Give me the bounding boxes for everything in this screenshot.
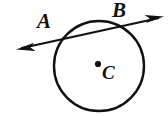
diagram-canvas: [0, 0, 168, 116]
geometry-figure: A B C: [0, 0, 168, 116]
point-label-b: B: [112, 0, 126, 21]
arrowhead-right-icon: [145, 15, 165, 23]
point-label-a: A: [37, 11, 51, 32]
center-point-dot: [95, 61, 101, 67]
center-label-c: C: [102, 63, 115, 82]
arrowhead-left-icon: [16, 43, 36, 51]
